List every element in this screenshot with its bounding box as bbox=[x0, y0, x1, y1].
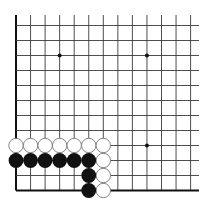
white-stone[interactable] bbox=[96, 138, 110, 152]
go-board[interactable] bbox=[0, 0, 209, 208]
black-stone[interactable] bbox=[23, 153, 38, 168]
white-stone[interactable] bbox=[96, 168, 110, 182]
black-stone[interactable] bbox=[81, 168, 96, 183]
white-stone[interactable] bbox=[96, 183, 110, 197]
white-stone[interactable] bbox=[52, 138, 66, 152]
star-point bbox=[58, 54, 62, 58]
black-stone[interactable] bbox=[9, 153, 24, 168]
black-stone[interactable] bbox=[38, 153, 53, 168]
star-point bbox=[145, 144, 149, 148]
black-stone[interactable] bbox=[67, 153, 82, 168]
white-stone[interactable] bbox=[96, 153, 110, 167]
black-stone[interactable] bbox=[81, 153, 96, 168]
black-stone[interactable] bbox=[81, 183, 96, 198]
star-point bbox=[145, 54, 149, 58]
black-stone[interactable] bbox=[52, 153, 67, 168]
white-stone[interactable] bbox=[82, 138, 96, 152]
white-stone[interactable] bbox=[9, 138, 23, 152]
white-stone[interactable] bbox=[67, 138, 81, 152]
white-stone[interactable] bbox=[23, 138, 37, 152]
white-stone[interactable] bbox=[38, 138, 52, 152]
